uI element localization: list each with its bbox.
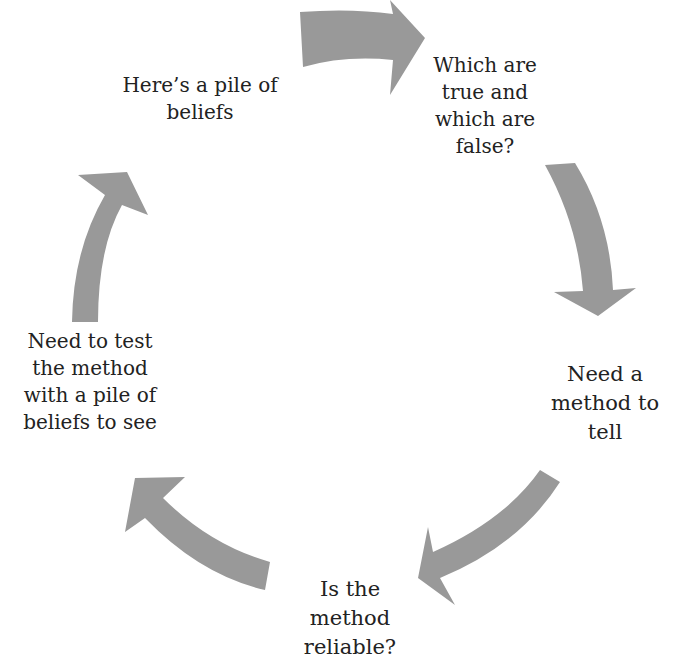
node-text-line: beliefs to see bbox=[5, 409, 175, 436]
node-text-line: method bbox=[270, 604, 430, 633]
node-text-line: tell bbox=[530, 418, 680, 447]
node-true-false: Which are true and which are false? bbox=[410, 52, 560, 160]
arrow-test-method-to-beliefs bbox=[72, 172, 148, 322]
node-text-line: with a pile of bbox=[5, 382, 175, 409]
arrow-beliefs-to-true-false bbox=[300, 0, 425, 95]
node-text-line: Need to test bbox=[5, 328, 175, 355]
node-test-method: Need to test the method with a pile of b… bbox=[5, 328, 175, 436]
node-text-line: Is the bbox=[270, 575, 430, 604]
node-text-line: which are bbox=[410, 106, 560, 133]
node-text-line: Need a bbox=[530, 360, 680, 389]
node-need-method: Need a method to tell bbox=[530, 360, 680, 447]
node-text-line: method to bbox=[530, 389, 680, 418]
node-text-line: beliefs bbox=[110, 99, 290, 126]
node-text-line: true and bbox=[410, 79, 560, 106]
arrow-need-method-to-reliable bbox=[418, 470, 560, 605]
belief-cycle-diagram: Here’s a pile of beliefs Which are true … bbox=[0, 0, 681, 667]
node-text-line: Which are bbox=[410, 52, 560, 79]
node-reliable: Is the method reliable? bbox=[270, 575, 430, 662]
arrow-reliable-to-test-method bbox=[125, 477, 270, 590]
arrow-true-false-to-need-method bbox=[545, 163, 636, 316]
node-text-line: the method bbox=[5, 355, 175, 382]
node-beliefs: Here’s a pile of beliefs bbox=[110, 72, 290, 126]
node-text-line: reliable? bbox=[270, 633, 430, 662]
node-text-line: false? bbox=[410, 133, 560, 160]
node-text-line: Here’s a pile of bbox=[110, 72, 290, 99]
